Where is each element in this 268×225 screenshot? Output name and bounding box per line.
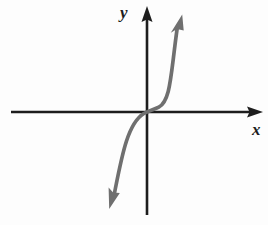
plot-area (0, 0, 268, 225)
function-graph-figure: y x (0, 0, 268, 225)
x-axis (11, 107, 263, 118)
x-axis-label: x (252, 121, 261, 138)
y-axis-label: y (120, 4, 128, 21)
